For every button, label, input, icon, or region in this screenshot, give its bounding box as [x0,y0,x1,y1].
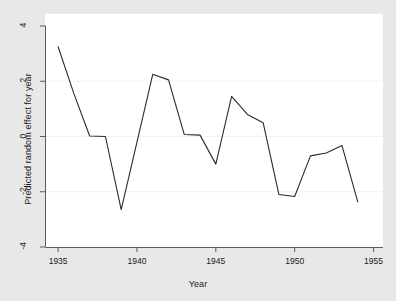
x-tick-label: 1945 [206,256,225,266]
y-tick-label: -2 [18,182,28,200]
chart-figure: Predicted random effect for year Year 19… [0,0,396,301]
y-tick-label: -4 [18,237,28,255]
y-tick-label: 2 [18,71,28,89]
plot-area-background [45,14,383,247]
x-axis-title: Year [0,279,396,289]
x-tick-label: 1950 [285,256,304,266]
y-tick-label: 0 [18,127,28,145]
y-tick-label: 4 [18,16,28,34]
x-tick-label: 1955 [364,256,383,266]
x-tick-label: 1940 [128,256,147,266]
x-tick-label: 1935 [49,256,68,266]
